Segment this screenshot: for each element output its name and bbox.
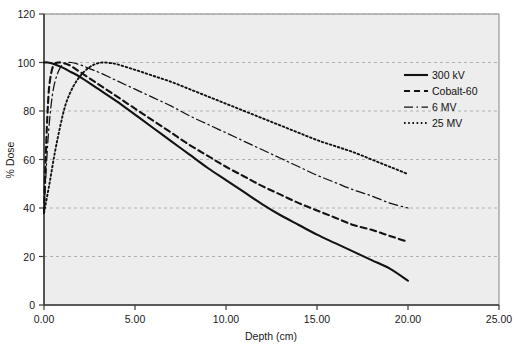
y-tick-label-1: 20: [23, 251, 35, 263]
y-tick-label-6: 120: [17, 8, 35, 20]
x-tick-label-4: 20.00: [395, 313, 421, 325]
legend-label-300-kv: 300 kV: [432, 69, 465, 81]
x-tick-label-5: 25.00: [486, 313, 512, 325]
x-tick-label-1: 5.00: [125, 313, 146, 325]
x-axis-title: Depth (cm): [245, 330, 297, 342]
y-axis-tick-labels: 020406080100120: [17, 8, 35, 311]
x-axis-tick-labels: 0.005.0010.0015.0020.0025.00: [34, 313, 513, 325]
y-tick-label-4: 80: [23, 105, 35, 117]
legend-label-6-mv: 6 MV: [432, 101, 457, 113]
y-tick-label-5: 100: [17, 57, 35, 69]
x-tick-label-0: 0.00: [34, 313, 55, 325]
y-tick-label-3: 60: [23, 154, 35, 166]
depth-dose-plot: 0.005.0010.0015.0020.0025.00 02040608010…: [0, 0, 524, 347]
chart-figure: 0.005.0010.0015.0020.0025.00 02040608010…: [0, 0, 524, 347]
legend-label-25-mv: 25 MV: [432, 117, 462, 129]
y-axis-title: % Dose: [4, 141, 16, 178]
y-tick-label-0: 0: [29, 299, 35, 311]
x-tick-label-3: 15.00: [304, 313, 330, 325]
y-tick-label-2: 40: [23, 202, 35, 214]
x-tick-label-2: 10.00: [213, 313, 239, 325]
legend-label-cobalt-60: Cobalt-60: [432, 85, 478, 97]
